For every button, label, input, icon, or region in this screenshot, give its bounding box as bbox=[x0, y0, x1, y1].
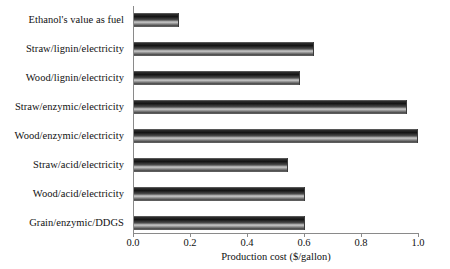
bar-6 bbox=[133, 187, 305, 201]
category-axis-labels: Ethanol's value as fuel Straw/lignin/ele… bbox=[0, 6, 128, 234]
category-label-4: Wood/enzymic/electricity bbox=[15, 131, 124, 142]
x-tick-label-1: 0.2 bbox=[183, 238, 196, 249]
category-label-3: Straw/enzymic/electricity bbox=[15, 102, 124, 113]
bar-7 bbox=[133, 216, 305, 230]
bar-4 bbox=[133, 129, 418, 143]
x-tick-label-0: 0.0 bbox=[126, 238, 139, 249]
category-label-2: Wood/lignin/electricity bbox=[26, 73, 124, 84]
bar-5 bbox=[133, 158, 288, 172]
bar-0 bbox=[133, 13, 179, 27]
x-tick-label-3: 0.6 bbox=[297, 238, 310, 249]
bar-1 bbox=[133, 42, 314, 56]
category-label-1: Straw/lignin/electricity bbox=[26, 44, 124, 55]
y-axis-line bbox=[133, 6, 134, 234]
category-label-7: Grain/enzymic/DDGS bbox=[29, 218, 124, 229]
bar-2 bbox=[133, 71, 300, 85]
x-axis-line bbox=[133, 233, 419, 234]
production-cost-bar-chart: Ethanol's value as fuel Straw/lignin/ele… bbox=[0, 0, 450, 269]
plot-area bbox=[133, 6, 418, 234]
x-axis-title: Production cost ($/gallon) bbox=[133, 252, 419, 263]
category-label-6: Wood/acid/electricity bbox=[33, 189, 124, 200]
category-label-5: Straw/acid/electricity bbox=[33, 160, 124, 171]
x-tick-label-2: 0.4 bbox=[240, 238, 253, 249]
category-label-0: Ethanol's value as fuel bbox=[29, 15, 124, 26]
x-tick-label-5: 1.0 bbox=[411, 238, 424, 249]
x-tick-label-4: 0.8 bbox=[354, 238, 367, 249]
bar-3 bbox=[133, 100, 407, 114]
